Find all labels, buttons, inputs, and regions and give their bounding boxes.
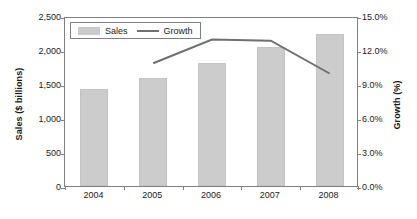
y-axis-left-tick-label: 2,000 <box>38 46 61 56</box>
y-axis-right-ticks: 0.0%3.0%6.0%9.0%12.0%15.0% <box>362 0 402 219</box>
tick-mark-left <box>61 18 65 19</box>
tick-mark-bottom <box>358 186 359 190</box>
x-axis-label-2005: 2005 <box>123 190 182 200</box>
y-axis-left-tick-label: 1,000 <box>38 114 61 124</box>
growth-line-series <box>65 18 359 188</box>
y-axis-left-tick-label: 2,500 <box>38 12 61 22</box>
tick-mark-left <box>61 154 65 155</box>
tick-mark-left <box>61 86 65 87</box>
plot-area <box>64 17 358 187</box>
y-axis-left-tick-label: 1,500 <box>38 80 61 90</box>
tick-mark-right <box>357 86 361 87</box>
y-axis-right-tick-label: 12.0% <box>362 46 388 56</box>
y-axis-right-tick-label: 9.0% <box>362 80 383 90</box>
legend-label-sales: Sales <box>105 26 128 36</box>
tick-mark-left <box>61 120 65 121</box>
chart-legend: Sales Growth <box>70 22 201 39</box>
y-axis-right-tick-label: 15.0% <box>362 12 388 22</box>
x-axis-label-2008: 2008 <box>299 190 358 200</box>
tick-mark-right <box>357 52 361 53</box>
y-axis-left-tick-label: 500 <box>46 148 61 158</box>
x-axis-label-2004: 2004 <box>64 190 123 200</box>
y-axis-right-tick-label: 3.0% <box>362 148 383 158</box>
plot-inner <box>65 18 357 186</box>
legend-item-sales: Sales <box>78 26 128 36</box>
tick-mark-right <box>357 18 361 19</box>
growth-polyline <box>153 40 329 74</box>
y-axis-right-tick-label: 0.0% <box>362 182 383 192</box>
bar-swatch-icon <box>78 27 100 35</box>
x-axis-label-2006: 2006 <box>182 190 241 200</box>
y-axis-right-tick-label: 6.0% <box>362 114 383 124</box>
legend-item-growth: Growth <box>137 26 193 36</box>
y-axis-left-ticks: 05001,0001,5002,0002,500 <box>21 0 61 219</box>
legend-label-growth: Growth <box>164 26 193 36</box>
x-axis-label-2007: 2007 <box>240 190 299 200</box>
x-axis-labels: 20042005200620072008 <box>64 190 358 206</box>
sales-growth-combo-chart: Sales ($ billions) Growth (%) 05001,0001… <box>0 0 417 219</box>
tick-mark-right <box>357 154 361 155</box>
tick-mark-right <box>357 120 361 121</box>
line-swatch-icon <box>137 30 159 32</box>
tick-mark-left <box>61 52 65 53</box>
y-axis-left-tick-label: 0 <box>56 182 61 192</box>
